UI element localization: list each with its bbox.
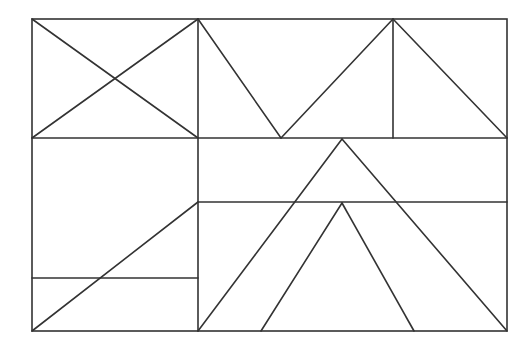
lower-left-diagonal	[32, 202, 198, 331]
v-left-arm	[198, 19, 281, 138]
top-right-diagonal	[393, 19, 507, 138]
line-segments	[32, 19, 507, 331]
diagram-svg	[0, 0, 530, 346]
geometric-line-diagram	[0, 0, 530, 346]
outer-rectangle	[32, 19, 507, 331]
big-triangle-left	[198, 139, 342, 331]
inner-triangle-right	[342, 203, 414, 331]
inner-triangle-left	[261, 203, 342, 331]
big-triangle-right	[342, 139, 507, 331]
v-right-arm	[281, 19, 393, 138]
